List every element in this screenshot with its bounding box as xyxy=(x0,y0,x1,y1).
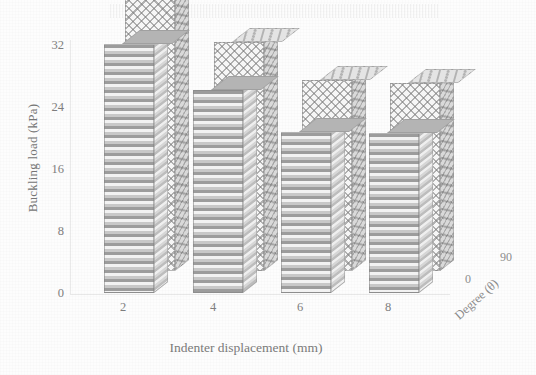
y-tick-32: 32 xyxy=(24,38,64,53)
z-tick-90: 90 xyxy=(500,250,512,265)
z-tick-0: 0 xyxy=(465,272,471,287)
y-tick-0: 0 xyxy=(24,286,64,301)
bar-front-face xyxy=(369,133,419,293)
bar-side-face xyxy=(243,79,257,293)
x-tick-8: 8 xyxy=(368,300,408,315)
x-tick-6: 6 xyxy=(280,300,320,315)
x-tick-4: 4 xyxy=(193,300,233,315)
bar-top-face xyxy=(320,66,388,80)
bars-layer xyxy=(0,0,536,375)
bar-side-face xyxy=(419,122,433,293)
bar-side-face xyxy=(331,121,345,293)
bar-deg0-disp6 xyxy=(281,132,331,293)
bar-front-face xyxy=(193,90,243,293)
bar-deg0-disp4 xyxy=(193,90,243,293)
bar-side-face xyxy=(352,69,366,271)
chart-figure: 32 24 16 8 0 2 4 6 8 0 90 Buckling load … xyxy=(0,0,536,375)
x-axis-title: Indenter displacement (mm) xyxy=(96,340,396,356)
bar-top-face xyxy=(408,69,476,83)
bar-side-face xyxy=(154,33,168,293)
bar-side-face xyxy=(440,72,454,271)
bar-side-face xyxy=(264,31,278,271)
bar-front-face xyxy=(104,44,154,293)
bar-deg0-disp8 xyxy=(369,133,419,293)
x-tick-2: 2 xyxy=(103,300,143,315)
y-axis-title: Buckling load (kPa) xyxy=(25,63,41,253)
bar-front-face xyxy=(281,132,331,293)
bar-side-face xyxy=(175,0,189,271)
bar-deg0-disp2 xyxy=(104,44,154,293)
bar-top-face xyxy=(232,28,300,42)
